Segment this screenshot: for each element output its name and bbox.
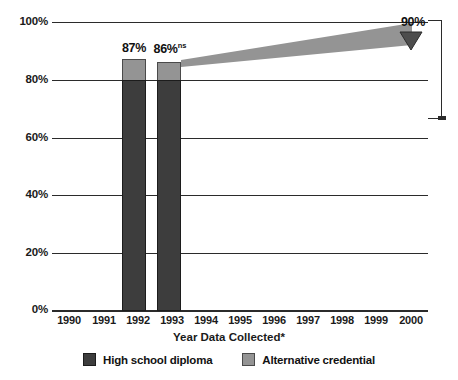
- x-axis-ticks: 1990 1991 1992 1993 1994 1995 1996 1997 …: [0, 0, 458, 380]
- x-axis-title: Year Data Collected*: [0, 331, 458, 343]
- chart-container: 100% 80% 60% 40% 20% 0% 87% 86%ns 90% 19…: [0, 0, 458, 380]
- x-tick-1999: 1999: [356, 314, 396, 326]
- chart-legend: High school diploma Alternative credenti…: [0, 353, 458, 366]
- legend-item-alternative: Alternative credential: [242, 353, 375, 366]
- legend-swatch-diploma-icon: [83, 353, 96, 366]
- legend-label-alternative: Alternative credential: [262, 354, 375, 366]
- legend-label-diploma: High school diploma: [103, 354, 212, 366]
- x-tick-1990: 1990: [49, 314, 89, 326]
- legend-item-diploma: High school diploma: [83, 353, 212, 366]
- legend-swatch-alternative-icon: [242, 353, 255, 366]
- x-tick-2000: 2000: [391, 314, 431, 326]
